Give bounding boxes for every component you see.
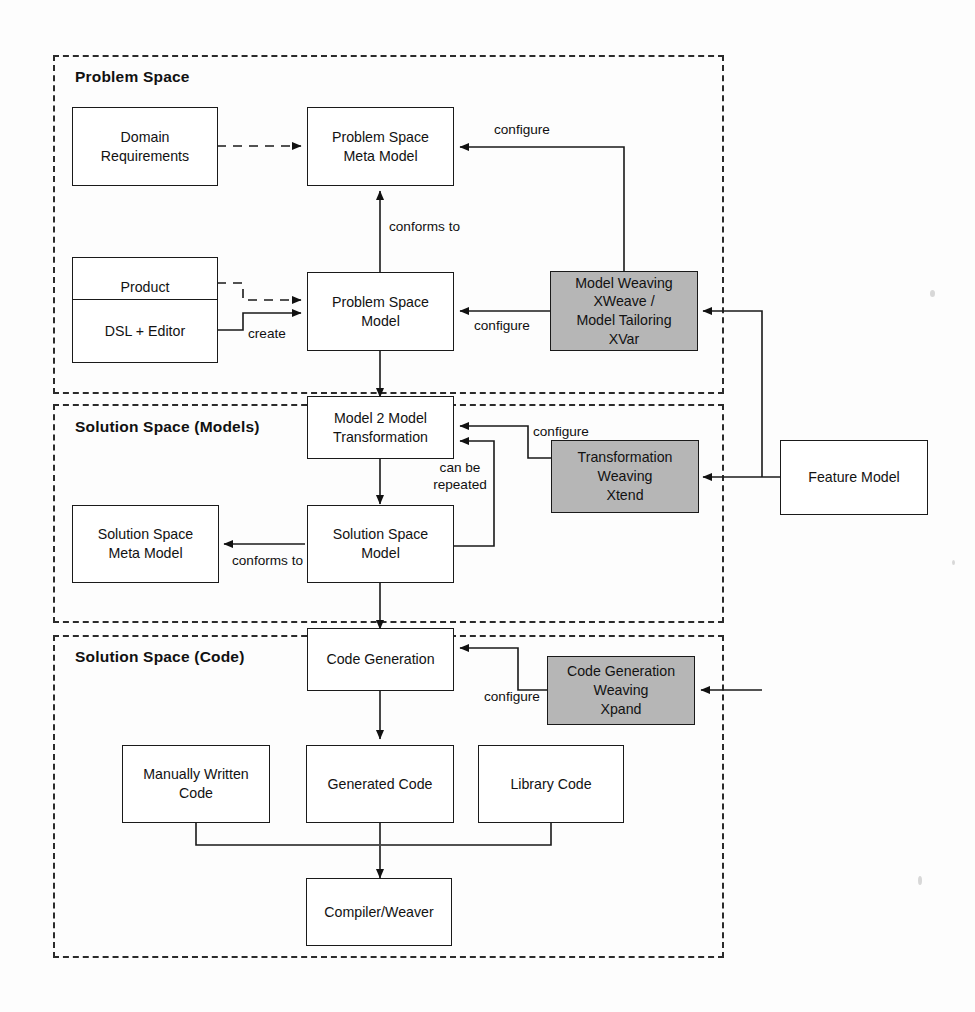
node-code-generation-label: Code Generation [326,650,434,669]
group-problem-space-title: Problem Space [75,68,190,86]
node-domain-requirements-label: Domain Requirements [101,128,189,165]
edge-label-configure-problem-space-model: configure [474,317,530,334]
node-solution-space-model[interactable]: Solution Space Model [307,505,454,583]
node-model-2-model-transformation[interactable]: Model 2 Model Transformation [307,396,454,459]
node-transformation-weaving-label: Transformation Weaving Xtend [578,448,673,504]
diagram-canvas: Problem Space Solution Space (Models) So… [0,0,975,1012]
node-solution-space-model-label: Solution Space Model [333,525,428,562]
node-problem-space-model-label: Problem Space Model [332,293,429,330]
node-transformation-weaving[interactable]: Transformation Weaving Xtend [551,440,699,513]
edge-label-conforms-to-top: conforms to [389,218,460,235]
edge-label-configure-meta-model: configure [494,121,550,138]
node-library-code[interactable]: Library Code [478,745,624,823]
node-code-generation-weaving-label: Code Generation Weaving Xpand [567,662,675,718]
node-compiler-weaver-label: Compiler/Weaver [324,903,433,922]
edge-label-create: create [248,325,286,342]
node-manually-written-code-label: Manually Written Code [143,765,248,802]
node-code-generation[interactable]: Code Generation [307,628,454,691]
edge-label-can-be-repeated: can be repeated [430,459,490,493]
node-problem-space-meta-model[interactable]: Problem Space Meta Model [307,107,454,186]
edge-label-conforms-to-solution: conforms to [232,552,303,569]
node-model-2-model-transformation-label: Model 2 Model Transformation [333,409,428,446]
node-model-weaving-label: Model Weaving XWeave / Model Tailoring X… [575,274,673,349]
node-problem-space-model[interactable]: Problem Space Model [307,272,454,351]
node-problem-space-meta-model-label: Problem Space Meta Model [332,128,429,165]
node-manually-written-code[interactable]: Manually Written Code [122,745,270,823]
scan-speck [930,290,935,297]
node-model-weaving[interactable]: Model Weaving XWeave / Model Tailoring X… [550,271,698,351]
node-library-code-label: Library Code [510,775,591,794]
scan-speck [918,876,922,885]
node-compiler-weaver[interactable]: Compiler/Weaver [306,878,452,946]
node-dsl-editor[interactable]: DSL + Editor [72,299,218,363]
node-feature-model-label: Feature Model [808,468,899,487]
edge-label-configure-m2m: configure [533,423,589,440]
group-solution-space-models-title: Solution Space (Models) [75,418,260,436]
node-generated-code[interactable]: Generated Code [306,745,454,823]
group-solution-space-code-title: Solution Space (Code) [75,648,245,666]
node-dsl-editor-label: DSL + Editor [105,322,185,341]
node-feature-model[interactable]: Feature Model [780,440,928,515]
node-solution-space-meta-model[interactable]: Solution Space Meta Model [72,505,219,583]
node-solution-space-meta-model-label: Solution Space Meta Model [98,525,193,562]
node-domain-requirements[interactable]: Domain Requirements [72,107,218,186]
edge-label-configure-code-generation: configure [484,688,540,705]
node-code-generation-weaving[interactable]: Code Generation Weaving Xpand [547,656,695,725]
scan-speck [952,560,955,565]
node-generated-code-label: Generated Code [328,775,433,794]
